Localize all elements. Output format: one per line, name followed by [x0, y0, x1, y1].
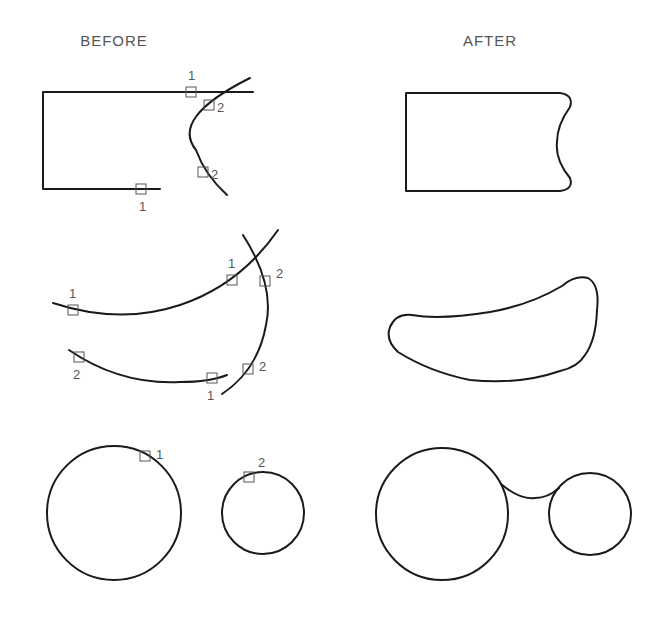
pick-label: 2 [211, 167, 218, 182]
row3-after [376, 448, 631, 580]
small-circle [549, 473, 631, 555]
pick-label: 2 [259, 359, 266, 374]
filleted-shape [389, 277, 598, 381]
pick-label: 2 [217, 100, 224, 115]
row3-before: 1 2 [47, 446, 304, 580]
filleted-rectangle [406, 93, 571, 191]
pick-label: 1 [69, 286, 76, 301]
pick-label: 2 [276, 266, 283, 281]
after-heading: AFTER [463, 32, 517, 49]
fillet-diagram: BEFORE AFTER 1 2 2 1 1 1 2 2 1 2 [0, 0, 665, 617]
small-circle [222, 472, 304, 554]
arc-lower [69, 350, 227, 382]
pick-label: 2 [73, 367, 80, 382]
before-heading: BEFORE [80, 32, 148, 49]
pick-label: 1 [188, 68, 195, 83]
large-circle [376, 448, 508, 580]
row2-after [389, 277, 598, 381]
pick-label: 1 [228, 256, 235, 271]
row2-before: 1 1 2 2 1 2 [53, 230, 283, 403]
pick-label: 1 [139, 199, 146, 214]
large-circle [47, 446, 181, 580]
pick-label: 1 [156, 447, 163, 462]
row1-after [406, 93, 571, 191]
pick-label: 1 [207, 388, 214, 403]
fillet-arc [501, 484, 559, 498]
row1-before: 1 2 2 1 [43, 68, 253, 214]
pick-label: 2 [258, 455, 265, 470]
arc-upper [53, 230, 278, 315]
